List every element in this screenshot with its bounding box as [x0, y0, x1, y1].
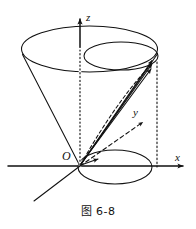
y-axis-label: y: [132, 106, 138, 118]
figure-caption: 图 6-8: [0, 205, 196, 219]
cone-cylinder-diagram: z x y O: [0, 0, 196, 229]
origin-label: O: [62, 149, 71, 163]
vector-line-2: [81, 61, 152, 165]
cylinder-base-ellipse: [78, 150, 152, 184]
y-axis-line: [80, 122, 143, 166]
figure-container: z x y O 图 6-8: [0, 0, 196, 229]
x-axis-label: x: [174, 151, 180, 163]
oblique-axis-line: [34, 166, 80, 201]
diagram-strokes: [8, 19, 183, 201]
z-axis-label: z: [85, 11, 91, 23]
cylinder-top-ellipse: [84, 42, 158, 70]
